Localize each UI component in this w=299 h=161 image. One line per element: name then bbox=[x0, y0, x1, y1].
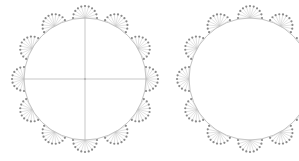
fan-dot bbox=[145, 66, 147, 68]
fan-dot bbox=[145, 38, 147, 40]
fan-dot bbox=[19, 107, 21, 109]
fan-dot bbox=[55, 13, 57, 15]
fan-dot bbox=[176, 78, 178, 80]
fan-10 bbox=[184, 35, 204, 60]
fan-spoke bbox=[17, 79, 24, 89]
fan-dot bbox=[72, 139, 74, 141]
fan-dot bbox=[19, 49, 21, 51]
fan-dot bbox=[77, 149, 79, 151]
fan-dot bbox=[41, 24, 43, 26]
fan-dot bbox=[187, 55, 189, 57]
fan-dot bbox=[285, 15, 287, 17]
fan-dot bbox=[229, 19, 231, 21]
fan-dot bbox=[20, 52, 22, 54]
fan-dot bbox=[149, 89, 151, 91]
fan-dot bbox=[207, 128, 209, 130]
fan-spoke bbox=[220, 17, 228, 26]
fan-dot bbox=[245, 150, 247, 152]
fan-dot bbox=[72, 13, 74, 15]
fan-spoke bbox=[85, 140, 96, 144]
fan-dot bbox=[125, 31, 127, 33]
fan-dot bbox=[30, 35, 32, 37]
fan-dot bbox=[242, 149, 244, 151]
fan-dot bbox=[30, 120, 32, 122]
fan-dot bbox=[64, 19, 66, 21]
fan-dot bbox=[117, 142, 119, 144]
fan-dot bbox=[77, 7, 79, 9]
fan-dot bbox=[84, 5, 86, 7]
fan-dot bbox=[123, 139, 125, 141]
fan-dot bbox=[34, 36, 36, 38]
fan-dot bbox=[275, 142, 277, 144]
fan-dot bbox=[184, 45, 186, 47]
fan-dot bbox=[195, 35, 197, 37]
fan-dot bbox=[11, 78, 13, 80]
fan-dot bbox=[125, 20, 127, 22]
fan-dot bbox=[249, 5, 251, 7]
fan-spoke bbox=[55, 132, 63, 141]
fan-spoke bbox=[14, 79, 24, 86]
fan-dot bbox=[37, 37, 39, 39]
fan-dot bbox=[117, 13, 119, 15]
fan-dot bbox=[143, 98, 145, 100]
fan-1 bbox=[269, 13, 294, 33]
fan-dot bbox=[23, 117, 25, 119]
fan-9 bbox=[176, 66, 190, 92]
fan-dot bbox=[253, 5, 255, 7]
fan-0 bbox=[72, 5, 98, 19]
fan-dot bbox=[88, 150, 90, 152]
fan-spoke bbox=[85, 11, 95, 18]
fan-dot bbox=[245, 5, 247, 7]
fan-spoke bbox=[74, 14, 85, 18]
fan-dot bbox=[126, 128, 128, 130]
fan-dot bbox=[239, 10, 241, 12]
fan-dot bbox=[290, 20, 292, 22]
fan-spoke bbox=[240, 140, 250, 147]
fan-dot bbox=[282, 142, 284, 144]
fan-spoke bbox=[81, 7, 85, 18]
fan-dot bbox=[126, 24, 128, 26]
fan-dot bbox=[261, 17, 263, 19]
fan-dot bbox=[94, 10, 96, 12]
fan-spoke bbox=[250, 8, 257, 18]
fan-spoke bbox=[185, 79, 189, 90]
fan-dot bbox=[237, 17, 239, 19]
fan-dot bbox=[47, 15, 49, 17]
fan-dot bbox=[11, 82, 13, 84]
fan-spoke bbox=[250, 140, 254, 151]
fan-dot bbox=[125, 125, 127, 127]
fan-dot bbox=[23, 38, 25, 40]
fan-spoke bbox=[246, 7, 250, 18]
fan-dot bbox=[184, 66, 186, 68]
fan-dot bbox=[188, 90, 190, 92]
fan-dot bbox=[206, 24, 208, 26]
fan-dot bbox=[209, 139, 211, 141]
fan-9 bbox=[11, 66, 25, 92]
fan-dot bbox=[44, 17, 46, 19]
fan-dot bbox=[271, 140, 273, 142]
fan-spoke bbox=[107, 132, 115, 141]
fan-dot bbox=[110, 14, 112, 16]
fan-spoke bbox=[178, 75, 189, 79]
fan-dot bbox=[226, 16, 228, 18]
fan-dot bbox=[42, 128, 44, 130]
fan-dot bbox=[178, 71, 180, 73]
fan-dot bbox=[269, 137, 271, 139]
fan-spoke bbox=[85, 8, 92, 18]
fan-dot bbox=[296, 119, 298, 121]
fan-11 bbox=[41, 13, 66, 33]
fan-dot bbox=[199, 36, 201, 38]
fan-spoke bbox=[240, 11, 250, 18]
fan-spoke bbox=[272, 17, 280, 26]
fan-dot bbox=[148, 52, 150, 54]
fan-dot bbox=[212, 141, 214, 143]
fan-8 bbox=[184, 98, 204, 123]
fan-dot bbox=[155, 71, 157, 73]
fan-spoke bbox=[75, 11, 85, 18]
fan-dot bbox=[51, 142, 53, 144]
fan-dot bbox=[216, 13, 218, 15]
fan-dot bbox=[207, 28, 209, 30]
fan-dot bbox=[13, 85, 15, 87]
fan-dot bbox=[126, 28, 128, 30]
fan-dot bbox=[184, 89, 186, 91]
